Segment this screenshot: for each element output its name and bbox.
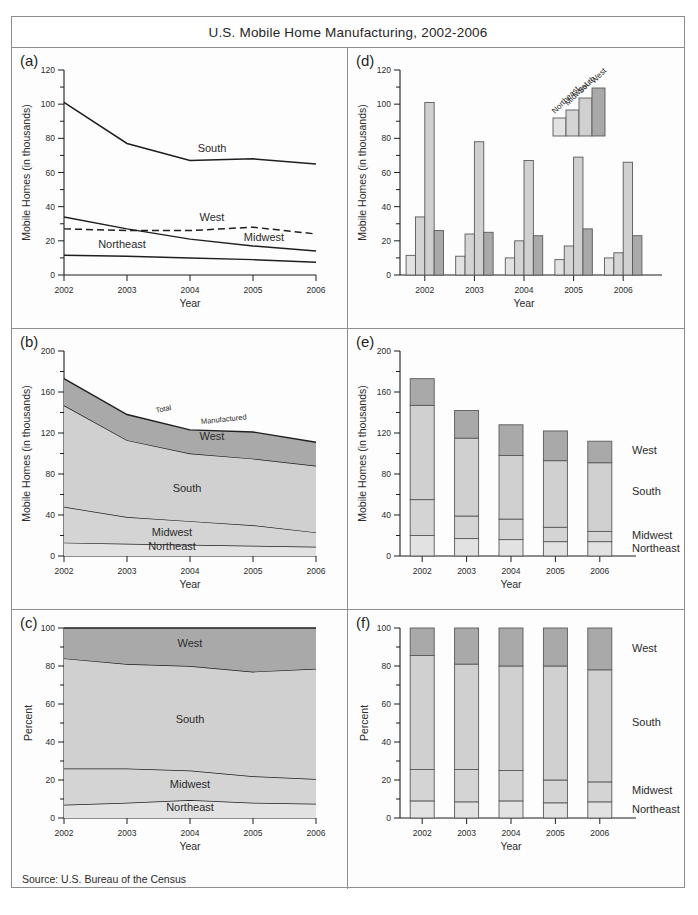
legend-swatch-south xyxy=(579,98,592,136)
x-tick-label-2004: 2004 xyxy=(502,566,521,576)
panel-b-chart: 0408012016020020022003200420052006YearMo… xyxy=(12,329,348,609)
stack-midwest-2003 xyxy=(455,770,479,802)
y-tick-label: 80 xyxy=(382,133,392,143)
band-label-south: South xyxy=(176,713,205,725)
y-tick-label: 160 xyxy=(377,387,391,397)
series-label-west: West xyxy=(200,211,225,223)
panel-f-tag: (f) xyxy=(356,614,370,631)
x-tick-label-2006: 2006 xyxy=(590,828,609,838)
panel-e-tag: (e) xyxy=(356,333,374,350)
panel-c-tag: (c) xyxy=(20,614,38,631)
y-tick-label: 0 xyxy=(50,270,55,280)
right-label-south: South xyxy=(632,485,661,497)
stack-west-2005 xyxy=(543,431,567,461)
stack-midwest-2002 xyxy=(410,500,434,536)
bar-midwest-2006 xyxy=(614,253,623,275)
x-tick-label-2005: 2005 xyxy=(546,828,565,838)
panel-d-chart: 02040608010012020022003200420052006YearM… xyxy=(348,48,684,328)
bar-west-2003 xyxy=(484,232,493,275)
bar-northeast-2003 xyxy=(456,256,465,275)
stack-south-2006 xyxy=(588,463,612,532)
panel-f: (f) 02040608010020022003200420052006Year… xyxy=(348,610,684,889)
panel-a: (a) 02040608010012020022003200420052006Y… xyxy=(12,48,348,329)
y-axis-title: Mobile Homes (in thousands) xyxy=(20,385,32,522)
y-tick-label: 80 xyxy=(46,469,56,479)
x-tick-label-2002: 2002 xyxy=(415,285,434,295)
band-label-west: West xyxy=(200,430,225,442)
series-label-south: South xyxy=(198,142,227,154)
y-tick-label: 80 xyxy=(46,661,56,671)
panel-e-chart: 0408012016020020022003200420052006YearMo… xyxy=(348,329,684,609)
y-tick-label: 120 xyxy=(41,428,55,438)
stack-midwest-2003 xyxy=(455,516,479,539)
legend-swatch-west xyxy=(592,88,605,136)
bar-south-2002 xyxy=(425,102,434,275)
right-label-northeast: Northeast xyxy=(632,803,680,815)
stack-west-2002 xyxy=(410,628,434,656)
stack-midwest-2004 xyxy=(499,771,523,801)
source-note: Source: U.S. Bureau of the Census xyxy=(22,873,186,885)
x-tick-label-2004: 2004 xyxy=(181,285,200,295)
bar-northeast-2005 xyxy=(555,260,564,275)
stack-midwest-2005 xyxy=(543,780,567,803)
stack-south-2002 xyxy=(410,405,434,499)
right-label-midwest: Midwest xyxy=(632,784,672,796)
y-axis-title: Percent xyxy=(22,705,34,741)
stack-west-2002 xyxy=(410,379,434,406)
panel-f-chart: 02040608010020022003200420052006YearPerc… xyxy=(348,610,684,885)
x-tick-label-2003: 2003 xyxy=(118,828,137,838)
stack-west-2005 xyxy=(543,628,567,666)
stack-west-2003 xyxy=(455,410,479,438)
y-tick-label: 40 xyxy=(46,202,56,212)
stack-south-2006 xyxy=(588,670,612,782)
x-tick-label-2003: 2003 xyxy=(118,285,137,295)
y-tick-label: 0 xyxy=(386,551,391,561)
annotation-total: Total xyxy=(155,403,173,415)
x-tick-label-2005: 2005 xyxy=(564,285,583,295)
x-tick-label-2002: 2002 xyxy=(55,566,74,576)
stack-west-2004 xyxy=(499,425,523,456)
x-tick-label-2005: 2005 xyxy=(546,566,565,576)
y-tick-label: 40 xyxy=(46,510,56,520)
bar-west-2005 xyxy=(583,229,592,275)
x-axis-title: Year xyxy=(179,578,201,590)
x-tick-label-2006: 2006 xyxy=(614,285,633,295)
x-axis-title: Year xyxy=(513,297,535,309)
x-tick-label-2003: 2003 xyxy=(457,828,476,838)
x-tick-label-2005: 2005 xyxy=(244,828,263,838)
x-tick-label-2002: 2002 xyxy=(55,285,74,295)
right-label-midwest: Midwest xyxy=(632,529,672,541)
bar-midwest-2005 xyxy=(564,246,573,275)
y-tick-label: 0 xyxy=(386,270,391,280)
y-tick-label: 100 xyxy=(41,623,55,633)
y-axis-title: Mobile Homes (in thousands) xyxy=(356,104,368,241)
bar-northeast-2002 xyxy=(406,255,415,275)
stack-midwest-2006 xyxy=(588,782,612,802)
bar-west-2006 xyxy=(633,236,642,275)
stack-midwest-2002 xyxy=(410,770,434,801)
bar-midwest-2004 xyxy=(515,241,524,275)
annotation-manufactured: Manufactured xyxy=(200,412,247,426)
x-tick-label-2005: 2005 xyxy=(244,285,263,295)
right-label-south: South xyxy=(632,716,661,728)
bar-northeast-2004 xyxy=(505,258,514,275)
stack-south-2005 xyxy=(543,461,567,528)
panel-grid: (a) 02040608010012020022003200420052006Y… xyxy=(12,48,684,889)
panel-c-chart: 02040608010020022003200420052006YearPerc… xyxy=(12,610,348,868)
x-tick-label-2002: 2002 xyxy=(413,566,432,576)
stack-midwest-2005 xyxy=(543,527,567,541)
y-tick-label: 0 xyxy=(386,813,391,823)
y-tick-label: 100 xyxy=(41,99,55,109)
stack-northeast-2003 xyxy=(455,539,479,556)
y-tick-label: 80 xyxy=(382,469,392,479)
legend-label-west: West xyxy=(589,66,609,86)
series-label-northeast: Northeast xyxy=(98,238,146,250)
x-tick-label-2002: 2002 xyxy=(413,828,432,838)
figure-frame: U.S. Mobile Home Manufacturing, 2002-200… xyxy=(11,16,685,888)
band-label-west: West xyxy=(178,637,203,649)
panel-a-chart: 02040608010012020022003200420052006YearM… xyxy=(12,48,348,328)
band-label-south: South xyxy=(173,482,202,494)
y-tick-label: 100 xyxy=(377,99,391,109)
right-label-west: West xyxy=(632,444,657,456)
band-label-northeast: Northeast xyxy=(166,801,214,813)
